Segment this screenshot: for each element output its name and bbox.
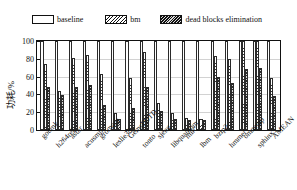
bar-group bbox=[194, 41, 208, 130]
legend-swatch-baseline bbox=[32, 15, 54, 24]
legend-label-dead-blocks-elimination: dead blocks elimination bbox=[185, 15, 261, 24]
bar bbox=[196, 41, 199, 130]
x-tick-label: lbm bbox=[198, 135, 213, 150]
bar bbox=[174, 119, 177, 130]
legend-swatch-dead-blocks-elimination bbox=[160, 15, 182, 24]
bar-group bbox=[208, 41, 222, 130]
legend-item-bm: bm bbox=[105, 15, 140, 24]
bar-group bbox=[166, 41, 180, 130]
chart-legend: baseline bm dead blocks elimination bbox=[32, 12, 282, 27]
bar-group bbox=[123, 41, 137, 130]
legend-label-bm: bm bbox=[130, 15, 140, 24]
plot-area: 020406080100 bbox=[36, 40, 281, 131]
bar bbox=[231, 83, 234, 130]
chart-figure: baseline bm dead blocks elimination 功耗/%… bbox=[0, 0, 297, 190]
legend-item-dead-blocks-elimination: dead blocks elimination bbox=[160, 15, 261, 24]
bar-group bbox=[81, 41, 95, 130]
bar bbox=[89, 85, 92, 130]
y-tick-label: 40 bbox=[26, 90, 34, 99]
bar-group bbox=[66, 41, 80, 130]
y-tick-label: 60 bbox=[26, 72, 34, 81]
y-tick-label: 80 bbox=[26, 54, 34, 63]
bar-group bbox=[52, 41, 66, 130]
y-tick-label: 100 bbox=[22, 37, 34, 46]
legend-swatch-bm bbox=[105, 15, 127, 24]
bar-group bbox=[222, 41, 236, 130]
x-axis-labels: gobmkh264refastaracusmpgromacsleslie3dGe… bbox=[36, 132, 281, 188]
bar bbox=[217, 77, 220, 130]
bar bbox=[203, 120, 206, 130]
bar-group bbox=[95, 41, 109, 130]
bar-group bbox=[38, 41, 52, 130]
bar bbox=[273, 96, 276, 130]
legend-label-baseline: baseline bbox=[57, 15, 83, 24]
bar-group bbox=[180, 41, 194, 130]
bar bbox=[245, 69, 248, 130]
legend-item-baseline: baseline bbox=[32, 15, 83, 24]
y-axis-label: 功耗/% bbox=[4, 81, 17, 109]
y-tick-label: 20 bbox=[26, 108, 34, 117]
y-tick-mark bbox=[37, 130, 40, 131]
bar bbox=[61, 95, 64, 130]
bar-group bbox=[265, 41, 279, 130]
bar-group bbox=[236, 41, 250, 130]
y-tick-label: 0 bbox=[30, 126, 34, 135]
bar-groups bbox=[37, 41, 280, 130]
